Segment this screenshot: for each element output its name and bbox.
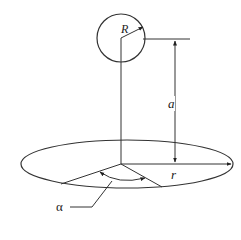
label-height: a (168, 96, 175, 111)
label-sphere-radius: R (121, 23, 128, 35)
angle-ray-right (121, 164, 162, 187)
label-disk-radius: r (171, 168, 176, 181)
label-angle: α (56, 200, 63, 213)
